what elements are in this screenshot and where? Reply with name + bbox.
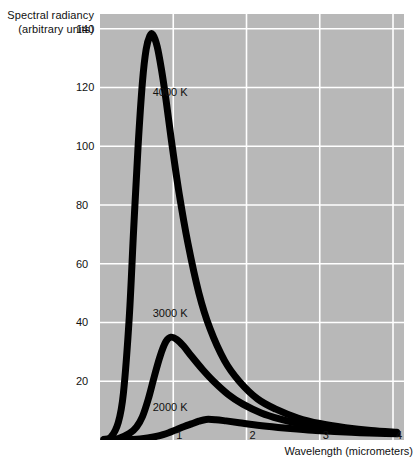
y-axis-tick-label: 60	[76, 259, 98, 270]
y-axis-tick-label: 140	[76, 24, 98, 35]
plot-canvas	[100, 14, 404, 440]
x-axis-tick-label: 3	[323, 430, 339, 441]
x-axis-tick-label: 4	[396, 430, 412, 441]
curve-label-2000-k: 2000 K	[153, 402, 188, 413]
y-axis-tick-label: 100	[76, 141, 98, 152]
curve-4000-k	[104, 34, 397, 440]
x-axis-tick-label: 1	[176, 430, 192, 441]
curve-label-4000-k: 4000 K	[153, 87, 188, 98]
plot-area	[100, 14, 404, 440]
y-axis-tick-label: 120	[76, 82, 98, 93]
y-axis-tick-label: 20	[76, 376, 98, 387]
y-axis-tick-label: 80	[76, 200, 98, 211]
curve-label-3000-k: 3000 K	[153, 308, 188, 319]
x-axis-label: Wavelength (micrometers)	[284, 445, 413, 457]
curve-group	[104, 34, 397, 440]
y-axis-label-line1: Spectral radiancy	[7, 9, 94, 21]
spectral-radiancy-chart: Spectral radiancy (arbitrary units) 2040…	[0, 0, 419, 459]
x-axis-tick-label: 2	[250, 430, 266, 441]
y-axis-tick-label: 40	[76, 317, 98, 328]
